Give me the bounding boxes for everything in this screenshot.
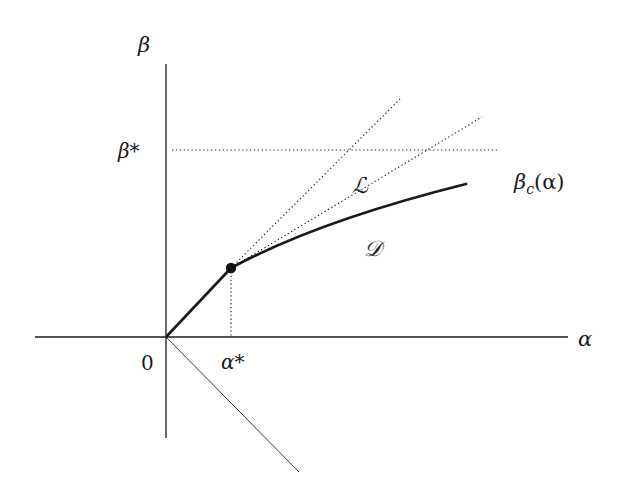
x-axis-label: α [578,327,592,351]
beta-star-label: β* [117,139,140,163]
y-axis-label: β [137,33,150,57]
critical-curve-label-sub: c [526,181,534,197]
alpha-star-label: α* [221,350,245,374]
critical-curve [231,184,466,268]
critical-curve-label: βc(α) [513,170,565,197]
critical-curve-label-base: β [513,170,526,194]
linear-segment [166,268,231,337]
region-D-label: 𝒟 [364,236,386,261]
origin-label: 0 [141,351,154,375]
phase-diagram: β α 0 α* β* βc(α) ℒ 𝒟 [0,0,621,499]
region-L-label: ℒ [352,173,369,198]
critical-point [226,263,236,273]
critical-curve-label-arg: (α) [534,170,565,194]
